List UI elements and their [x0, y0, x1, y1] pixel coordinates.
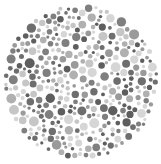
plate-dot: [57, 11, 61, 15]
plate-dot: [133, 65, 139, 71]
plate-dot: [112, 99, 115, 102]
plate-dot: [41, 65, 45, 69]
plate-dot: [129, 29, 139, 39]
plate-dot: [129, 88, 134, 93]
plate-dot: [64, 146, 67, 149]
plate-dot: [65, 25, 70, 30]
plate-dot: [55, 33, 58, 36]
plate-dot: [75, 28, 80, 33]
plate-dot: [123, 114, 126, 117]
plate-dot: [60, 125, 63, 128]
plate-dot: [48, 136, 54, 142]
plate-dot: [102, 85, 107, 90]
plate-dot: [45, 86, 49, 90]
plate-dot: [98, 62, 105, 69]
plate-dot: [65, 153, 71, 159]
plate-dot: [68, 16, 71, 19]
plate-dot: [71, 61, 79, 69]
plate-dot: [147, 49, 152, 54]
plate-dot: [46, 94, 55, 103]
plate-dot: [115, 93, 122, 100]
plate-dot: [65, 126, 73, 134]
plate-dot: [127, 46, 130, 49]
plate-dot: [47, 29, 53, 35]
plate-dot: [84, 50, 88, 54]
plate-dot: [72, 16, 75, 19]
plate-dot: [35, 64, 39, 68]
plate-dot: [85, 145, 92, 152]
plate-dot: [42, 134, 45, 137]
plate-dot: [128, 70, 134, 76]
plate-dot: [60, 56, 67, 63]
plate-dot: [47, 147, 51, 151]
plate-dot: [99, 24, 106, 31]
plate-dot: [90, 153, 96, 159]
plate-dot: [89, 118, 99, 128]
plate-dot: [132, 107, 137, 112]
plate-dot: [81, 31, 84, 34]
plate-dot: [34, 69, 39, 74]
plate-dot: [117, 114, 120, 117]
plate-dot: [73, 107, 76, 110]
plate-dot: [21, 128, 27, 134]
plate-dot: [63, 74, 67, 78]
plate-dot: [123, 78, 126, 81]
plate-dot: [123, 34, 128, 39]
plate-dot: [100, 45, 105, 50]
plate-dot: [71, 147, 75, 151]
plate-dot: [88, 99, 93, 104]
plate-dot: [79, 148, 82, 151]
plate-dot: [24, 49, 28, 53]
plate-dot: [64, 11, 68, 15]
plate-dot: [85, 59, 93, 67]
plate-dot: [136, 121, 141, 126]
plate-dot: [51, 48, 55, 52]
plate-dot: [146, 109, 150, 113]
plate-dot: [79, 66, 86, 73]
plate-dot: [53, 21, 57, 25]
plate-dot: [16, 93, 20, 97]
plate-dot: [122, 89, 128, 95]
plate-dot: [26, 93, 30, 97]
plate-dot: [39, 20, 45, 26]
plate-dot: [80, 59, 85, 64]
plate-dot: [4, 74, 9, 79]
plate-dot: [72, 91, 79, 98]
plate-dot: [55, 83, 59, 87]
plate-dot: [149, 59, 152, 62]
plate-dot: [116, 28, 124, 36]
plate-dot: [80, 123, 88, 131]
plate-dot: [122, 41, 128, 47]
plate-dot: [58, 64, 61, 67]
plate-dot: [99, 10, 103, 14]
plate-dot: [79, 102, 82, 105]
plate-dot: [21, 96, 25, 100]
plate-dot: [135, 72, 139, 76]
plate-dot: [87, 137, 92, 142]
plate-dot: [102, 114, 108, 120]
plate-dot: [45, 110, 54, 119]
plate-dot: [57, 101, 61, 105]
plate-dot: [122, 60, 130, 68]
plate-dot: [142, 65, 145, 68]
plate-dot: [49, 128, 56, 135]
plate-dot: [108, 26, 112, 30]
plate-dot: [35, 34, 40, 39]
plate-dot: [143, 104, 148, 109]
plate-dot: [32, 109, 35, 112]
plate-dot: [42, 48, 49, 55]
plate-dot: [91, 37, 94, 40]
plate-dot: [30, 80, 37, 87]
plate-dot: [109, 102, 113, 106]
plate-dot: [52, 140, 62, 150]
plate-dot: [46, 25, 50, 29]
plate-dot: [108, 58, 111, 61]
plate-dot: [132, 49, 135, 52]
plate-dot: [42, 32, 46, 36]
plate-dot: [37, 50, 40, 53]
plate-dot: [51, 78, 56, 83]
plate-dot: [69, 71, 78, 80]
plate-dot: [143, 86, 146, 89]
plate-dot: [124, 84, 128, 88]
plate-dot: [143, 118, 146, 121]
